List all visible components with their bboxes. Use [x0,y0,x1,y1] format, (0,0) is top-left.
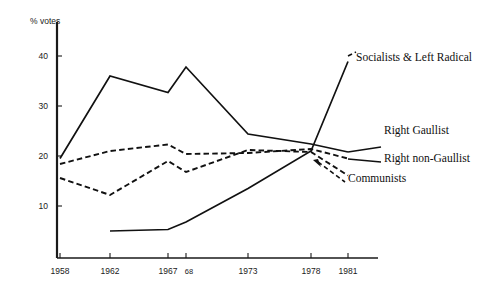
x-axis-label-1978: 1978 [302,266,321,276]
y-axis-label-30: 30 [39,101,49,111]
series-label-socialists: Socialists & Left Radical [356,51,472,63]
y-axis-title: % votes [30,16,60,26]
series-label-right-non-gaullist: Right non-Gaullist [384,152,471,165]
leader-right-gaullist [348,147,381,152]
series-label-communists: Communists [348,172,407,184]
leader-socialists [348,52,356,56]
x-axis-label-68: 68 [185,267,193,276]
x-axis-label-1967: 1967 [159,266,178,276]
series-line-communists [60,150,348,195]
y-axis-label-40: 40 [39,51,49,61]
x-axis-label-1958: 1958 [51,266,70,276]
series-label-right-gaullist: Right Gaullist [384,124,450,137]
x-axis-label-1981: 1981 [339,266,358,276]
x-axis-label-1973: 1973 [239,266,258,276]
y-axis-label-10: 10 [39,201,49,211]
series-line-right-gaullist [60,67,348,159]
election-vote-share-line-chart: % votes 40 30 20 10 1958 1962 1967 68 19… [0,0,488,290]
y-axis-label-20: 20 [39,151,49,161]
chart-canvas: % votes 40 30 20 10 1958 1962 1967 68 19… [0,0,488,290]
leader-right-non-gaullist [348,159,381,162]
series-group [60,62,348,232]
x-axis-label-1962: 1962 [101,266,120,276]
